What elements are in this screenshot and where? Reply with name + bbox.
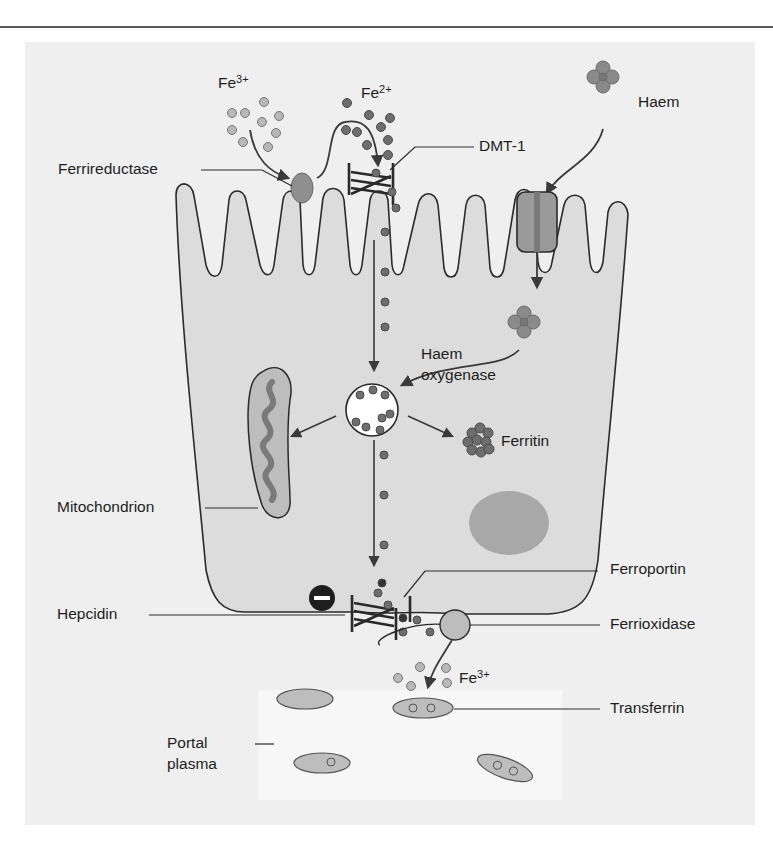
- label-ferrioxidase: Ferrioxidase: [610, 615, 695, 633]
- apo-transferrin: [277, 689, 333, 709]
- reduction-arrow: [250, 130, 288, 178]
- label-portal-plasma-line1: Portal: [167, 734, 208, 752]
- fe3-ions-bottom: [394, 663, 452, 691]
- haem-molecule-top: [587, 61, 619, 93]
- label-transferrin: Transferrin: [610, 699, 684, 717]
- transferrin-molecule-left: [294, 753, 350, 773]
- fe3-ions-top: [228, 98, 284, 152]
- transferrin-molecule-main: [393, 698, 453, 718]
- label-ferritin: Ferritin: [501, 432, 549, 450]
- label-dmt1: DMT-1: [479, 137, 526, 155]
- label-fe3-bottom: Fe3+: [459, 665, 490, 687]
- label-ferroportin: Ferroportin: [610, 560, 686, 578]
- haem-uptake-arrow: [547, 129, 603, 193]
- nucleus: [469, 491, 549, 555]
- enterocyte-diagram: [0, 0, 773, 862]
- label-portal-plasma-line2: plasma: [167, 755, 217, 773]
- label-haem-oxygenase-line1: Haem: [421, 345, 462, 363]
- ferrireductase-enzyme: [291, 173, 313, 203]
- label-haem: Haem: [638, 93, 679, 111]
- ferrioxidase-enzyme: [440, 610, 470, 640]
- label-fe2-top: Fe2+: [361, 80, 392, 102]
- label-ferrireductase: Ferrireductase: [58, 160, 158, 178]
- haem-carrier-protein: [517, 192, 557, 252]
- label-fe3-top: Fe3+: [218, 70, 249, 92]
- hepcidin-inhibitor-icon: [309, 585, 335, 611]
- enterocyte-cell: [176, 184, 628, 614]
- label-hepcidin: Hepcidin: [57, 605, 117, 623]
- label-mitochondrion: Mitochondrion: [57, 498, 154, 516]
- label-haem-oxygenase-line2: oxygenase: [421, 366, 496, 384]
